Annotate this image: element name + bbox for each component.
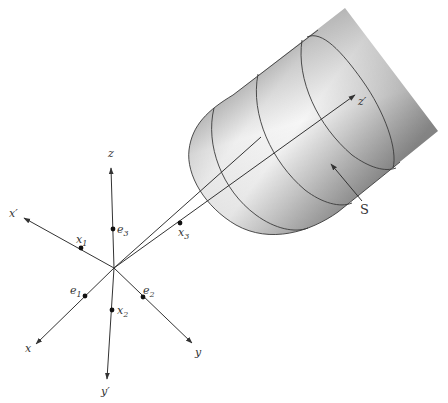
point-x3 xyxy=(178,221,183,226)
point-e3 xyxy=(111,227,116,232)
label-e1: e1 xyxy=(70,284,82,299)
diagram-svg: z x′ x y y′ z′ S x1 e3 x3 e1 e2 x2 xyxy=(0,0,448,403)
label-y: y xyxy=(194,346,202,359)
diagram-canvas: z x′ x y y′ z′ S x1 e3 x3 e1 e2 x2 xyxy=(0,0,448,403)
label-x1: x1 xyxy=(76,233,87,248)
label-z: z xyxy=(107,147,114,160)
label-x3: x3 xyxy=(178,226,189,241)
x-prime-axis xyxy=(24,218,114,268)
points xyxy=(79,221,183,313)
label-y-prime: y′ xyxy=(100,385,110,398)
label-z-prime: z′ xyxy=(357,95,367,108)
label-e3: e3 xyxy=(117,223,129,238)
x-axis xyxy=(36,268,114,344)
z-axis xyxy=(111,168,114,268)
label-x2: x2 xyxy=(117,304,128,319)
y-prime-axis xyxy=(107,268,114,379)
point-e1 xyxy=(83,294,88,299)
cylinder-surface xyxy=(189,8,438,235)
label-surface-s: S xyxy=(360,202,369,217)
label-x: x xyxy=(25,342,32,355)
point-labels: x1 e3 x3 e1 e2 x2 xyxy=(70,223,189,319)
label-x-prime: x′ xyxy=(9,207,18,220)
y-axis xyxy=(114,268,192,343)
label-e2: e2 xyxy=(143,284,155,299)
point-x2 xyxy=(110,308,115,313)
